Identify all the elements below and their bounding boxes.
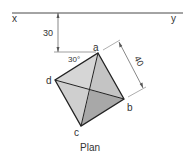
- extension-line-a: [103, 40, 120, 50]
- vertex-a-label: a: [93, 42, 99, 53]
- vertex-b-label: b: [127, 102, 133, 113]
- side-label: 40: [132, 54, 146, 68]
- x-label: x: [12, 13, 17, 24]
- extension-line-b: [128, 87, 146, 97]
- plan-title: Plan: [80, 142, 100, 153]
- vertex-d-label: d: [46, 75, 52, 86]
- vertex-c-label: c: [74, 127, 79, 138]
- y-label: y: [171, 13, 176, 24]
- arrow-down-icon: [57, 47, 60, 52]
- arrow-up-icon: [57, 13, 60, 18]
- plan-diagram: x y 30 30° a b c d 40 Plan: [0, 0, 186, 156]
- angle-label: 30°: [68, 55, 80, 64]
- distance-label: 30: [43, 28, 53, 38]
